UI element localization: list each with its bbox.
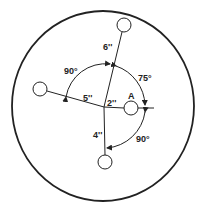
label-bottom-distance: 4'' [93, 130, 102, 140]
disc-diagram: 6'' 90° 75° 5'' 2'' A 4'' 90° [0, 0, 202, 213]
weight-top [117, 18, 131, 32]
label-a-name: A [128, 91, 135, 101]
label-angle-left-top: 90° [64, 66, 78, 76]
weight-left [33, 82, 47, 96]
label-a-distance: 2'' [107, 98, 116, 108]
label-left-distance: 5'' [83, 93, 92, 103]
weight-bottom [98, 155, 112, 169]
label-angle-top-a: 75° [138, 73, 152, 83]
spoke-bottom [104, 107, 105, 155]
spoke-left [47, 91, 104, 107]
weight-a [124, 101, 138, 115]
label-angle-a-bottom: 90° [136, 134, 150, 144]
label-top-distance: 6'' [103, 42, 112, 52]
outer-disc [12, 11, 194, 201]
